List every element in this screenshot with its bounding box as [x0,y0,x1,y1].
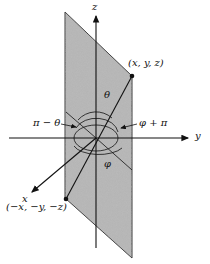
diagram-canvas [0,0,210,264]
z-axis-label: z [92,2,97,12]
point-neg-xyz-label: (−x, −y, −z) [6,202,67,212]
point-xyz [130,74,135,79]
plane [65,12,132,258]
phi-plus-pi-label: φ + π [139,118,167,128]
phi-label: φ [104,159,111,169]
y-axis-label: y [195,131,201,141]
pi-minus-theta-label: π − θ [33,118,60,128]
point-xyz-label: (x, y, z) [128,58,164,68]
theta-label: θ [104,90,110,100]
